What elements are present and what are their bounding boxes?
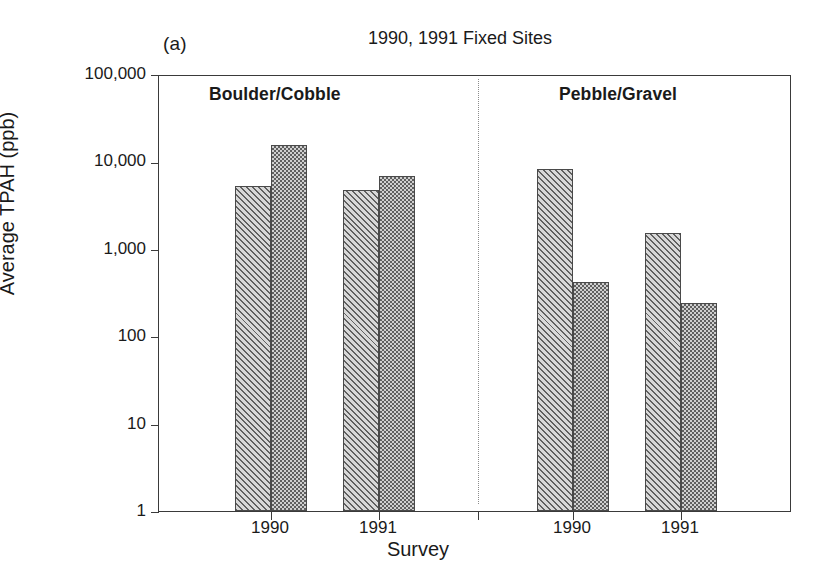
y-tick-label: 100,000: [62, 64, 146, 84]
chart-figure: (a) 1990, 1991 Fixed Sites Boulder/Cobbl…: [0, 0, 837, 572]
y-tick-mark: [151, 250, 159, 251]
panel-letter: (a): [163, 33, 187, 55]
y-tick-mark: [151, 512, 159, 513]
y-axis-title: Average TPAH (ppb): [0, 0, 19, 419]
y-tick-mark: [151, 163, 159, 164]
bar-boulder-cobble-1990-series-dark: [271, 145, 307, 511]
y-tick-mark: [151, 75, 159, 76]
y-tick-label: 10,000: [62, 151, 146, 171]
y-tick-label: 10: [62, 414, 146, 434]
group-label-boulder-cobble: Boulder/Cobble: [209, 84, 341, 105]
y-tick-mark: [151, 425, 159, 426]
x-axis-title: Survey: [318, 538, 518, 561]
x-tick-label-3: 1991: [640, 518, 720, 538]
chart-title: 1990, 1991 Fixed Sites: [300, 28, 620, 49]
bar-boulder-cobble-1990-series-light: [235, 186, 271, 512]
y-tick-label: 1: [62, 501, 146, 521]
bar-pebble-gravel-1990-series-light: [537, 169, 573, 511]
y-tick-label: 100: [62, 326, 146, 346]
y-tick-label: 1,000: [62, 239, 146, 259]
bar-pebble-gravel-1990-series-dark: [573, 282, 609, 511]
bar-boulder-cobble-1991-series-dark: [379, 176, 415, 511]
bar-pebble-gravel-1991-series-dark: [681, 303, 717, 511]
group-label-pebble-gravel: Pebble/Gravel: [559, 84, 677, 105]
x-tick-label-2: 1990: [532, 518, 612, 538]
x-tick-label-1: 1991: [338, 518, 418, 538]
bar-boulder-cobble-1991-series-light: [343, 190, 379, 511]
group-divider: [478, 79, 479, 504]
plot-area: Boulder/Cobble Pebble/Gravel 100,00010,0…: [158, 75, 791, 512]
y-tick-mark: [151, 337, 159, 338]
x-tick-label-0: 1990: [230, 518, 310, 538]
x-tick-mark: [478, 511, 479, 520]
bar-pebble-gravel-1991-series-light: [645, 233, 681, 511]
